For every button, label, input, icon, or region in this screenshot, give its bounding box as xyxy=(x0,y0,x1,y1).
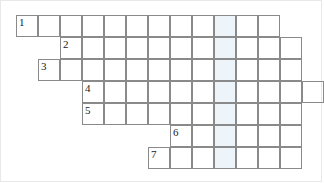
crossword-cell[interactable] xyxy=(170,59,192,81)
crossword-clue-number: 6 xyxy=(173,126,179,139)
crossword-cell[interactable] xyxy=(258,15,280,37)
crossword-cell[interactable] xyxy=(126,81,148,103)
crossword-cell[interactable] xyxy=(258,81,280,103)
crossword-cell[interactable]: 3 xyxy=(38,59,60,81)
crossword-clue-number: 2 xyxy=(63,38,69,51)
crossword-clue-number: 1 xyxy=(19,16,25,29)
crossword-cell[interactable] xyxy=(192,59,214,81)
crossword-cell[interactable] xyxy=(82,59,104,81)
crossword-cell[interactable] xyxy=(60,15,82,37)
crossword-grid: 1234567 xyxy=(1,1,323,183)
crossword-cell[interactable] xyxy=(214,125,236,147)
crossword-cell[interactable] xyxy=(214,15,236,37)
crossword-cell[interactable] xyxy=(214,59,236,81)
crossword-cell[interactable] xyxy=(170,15,192,37)
crossword-cell[interactable] xyxy=(192,15,214,37)
crossword-cell[interactable] xyxy=(126,15,148,37)
crossword-cell[interactable] xyxy=(126,37,148,59)
crossword-cell[interactable] xyxy=(280,59,302,81)
crossword-cell[interactable] xyxy=(104,37,126,59)
crossword-cell[interactable] xyxy=(192,103,214,125)
crossword-cell[interactable] xyxy=(170,81,192,103)
crossword-clue-number: 3 xyxy=(41,60,47,73)
crossword-cell[interactable] xyxy=(148,59,170,81)
crossword-cell[interactable] xyxy=(82,37,104,59)
crossword-cell[interactable] xyxy=(104,59,126,81)
crossword-cell[interactable] xyxy=(192,147,214,169)
crossword-cell[interactable] xyxy=(170,37,192,59)
crossword-clue-number: 5 xyxy=(85,104,91,117)
crossword-cell[interactable] xyxy=(258,147,280,169)
crossword-cell[interactable] xyxy=(148,103,170,125)
crossword-cell[interactable] xyxy=(126,103,148,125)
crossword-cell[interactable] xyxy=(236,37,258,59)
crossword-cell[interactable] xyxy=(170,103,192,125)
crossword-cell[interactable] xyxy=(236,15,258,37)
crossword-cell[interactable] xyxy=(104,103,126,125)
crossword-cell[interactable] xyxy=(170,147,192,169)
crossword-cell[interactable] xyxy=(280,81,302,103)
crossword-cell[interactable] xyxy=(280,37,302,59)
crossword-cell[interactable] xyxy=(192,81,214,103)
crossword-cell[interactable] xyxy=(236,103,258,125)
crossword-cell[interactable]: 2 xyxy=(60,37,82,59)
crossword-cell[interactable] xyxy=(82,15,104,37)
crossword-cell[interactable] xyxy=(192,125,214,147)
crossword-cell[interactable] xyxy=(148,15,170,37)
crossword-cell[interactable] xyxy=(38,15,60,37)
crossword-cell[interactable] xyxy=(280,103,302,125)
crossword-cell[interactable]: 4 xyxy=(82,81,104,103)
crossword-cell[interactable] xyxy=(236,59,258,81)
crossword-cell[interactable] xyxy=(192,37,214,59)
crossword-cell[interactable] xyxy=(258,37,280,59)
crossword-cell[interactable] xyxy=(236,125,258,147)
crossword-cell[interactable] xyxy=(104,15,126,37)
crossword-clue-number: 4 xyxy=(85,82,91,95)
crossword-cell[interactable] xyxy=(258,103,280,125)
crossword-cell[interactable] xyxy=(148,81,170,103)
crossword-cell[interactable] xyxy=(280,147,302,169)
crossword-cell[interactable] xyxy=(214,147,236,169)
crossword-cell[interactable] xyxy=(60,59,82,81)
crossword-cell[interactable] xyxy=(148,37,170,59)
crossword-cell[interactable] xyxy=(214,81,236,103)
crossword-cell[interactable]: 1 xyxy=(16,15,38,37)
crossword-cell[interactable] xyxy=(236,147,258,169)
crossword-cell[interactable] xyxy=(280,125,302,147)
crossword-cell[interactable] xyxy=(236,81,258,103)
crossword-cell[interactable] xyxy=(126,59,148,81)
crossword-cell[interactable] xyxy=(214,37,236,59)
crossword-cell[interactable] xyxy=(258,125,280,147)
crossword-cell[interactable] xyxy=(214,103,236,125)
crossword-cell[interactable] xyxy=(104,81,126,103)
crossword-cell[interactable]: 7 xyxy=(148,147,170,169)
crossword-clue-number: 7 xyxy=(151,148,157,161)
crossword-cell[interactable]: 5 xyxy=(82,103,104,125)
crossword-cell[interactable] xyxy=(302,81,324,103)
crossword-cell[interactable]: 6 xyxy=(170,125,192,147)
crossword-cell[interactable] xyxy=(258,59,280,81)
